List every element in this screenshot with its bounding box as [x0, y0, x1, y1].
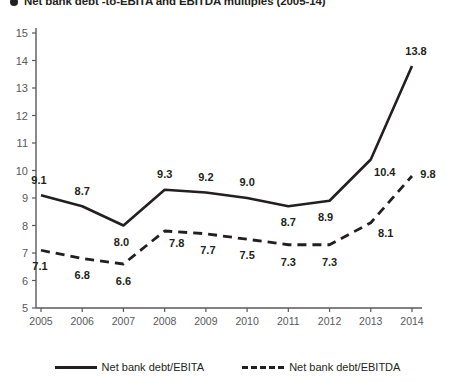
- legend-item-ebitda: Net bank debt/EBITDA: [242, 361, 400, 373]
- x-tick-label: 2009: [183, 315, 229, 327]
- data-point-label: 9.1: [31, 174, 46, 186]
- data-point-label: 6.8: [75, 269, 90, 281]
- y-tick-label: 7: [4, 247, 28, 259]
- data-point-label: 7.3: [322, 256, 337, 268]
- data-point-label: 8.7: [75, 185, 90, 197]
- y-tick-label: 8: [4, 220, 28, 232]
- y-tick-label: 13: [4, 82, 28, 94]
- data-point-label: 9.3: [157, 168, 172, 180]
- legend-label-ebitda: Net bank debt/EBITDA: [289, 361, 400, 373]
- data-point-label: 7.5: [239, 249, 254, 261]
- x-tick-label: 2008: [142, 315, 188, 327]
- data-point-label: 8.9: [318, 211, 333, 223]
- y-tick-label: 15: [4, 27, 28, 39]
- x-tick-label: 2012: [307, 315, 353, 327]
- y-tick-label: 10: [4, 165, 28, 177]
- series-line-ebita: [41, 66, 412, 226]
- chart-figure: Net bank debt -to-EBITA and EBITDA multi…: [0, 0, 455, 383]
- x-tick-label: 2011: [265, 315, 311, 327]
- data-point-label: 13.8: [405, 45, 426, 57]
- data-point-label: 9.2: [198, 171, 213, 183]
- legend-line-solid-icon: [55, 366, 97, 369]
- data-point-label: 7.7: [200, 244, 215, 256]
- x-tick-label: 2014: [389, 315, 435, 327]
- y-tick-label: 5: [4, 302, 28, 314]
- x-tick-label: 2013: [348, 315, 394, 327]
- data-point-label: 8.0: [114, 236, 129, 248]
- x-tick-label: 2005: [18, 315, 64, 327]
- data-point-label: 9.0: [239, 176, 254, 188]
- data-point-label: 7.8: [169, 237, 184, 249]
- legend-line-dashed-icon: [242, 366, 284, 369]
- legend-label-ebita: Net bank debt/EBITA: [102, 361, 205, 373]
- y-tick-label: 12: [4, 110, 28, 122]
- y-tick-label: 14: [4, 55, 28, 67]
- y-tick-label: 11: [4, 137, 28, 149]
- series-line-ebitda: [41, 176, 412, 264]
- data-point-label: 7.1: [32, 260, 47, 272]
- y-tick-label: 9: [4, 192, 28, 204]
- data-point-label: 10.4: [374, 166, 395, 178]
- plot-area: 56789101112131415 2005200620072008200920…: [0, 0, 455, 345]
- data-point-label: 8.1: [378, 227, 393, 239]
- y-tick-label: 6: [4, 275, 28, 287]
- data-point-label: 9.8: [420, 168, 435, 180]
- data-point-label: 8.7: [281, 216, 296, 228]
- x-tick-label: 2006: [59, 315, 105, 327]
- data-point-label: 6.6: [116, 275, 131, 287]
- x-tick-label: 2010: [224, 315, 270, 327]
- legend-item-ebita: Net bank debt/EBITA: [55, 361, 205, 373]
- data-point-label: 7.3: [281, 256, 296, 268]
- x-tick-label: 2007: [100, 315, 146, 327]
- chart-legend: Net bank debt/EBITA Net bank debt/EBITDA: [0, 357, 455, 377]
